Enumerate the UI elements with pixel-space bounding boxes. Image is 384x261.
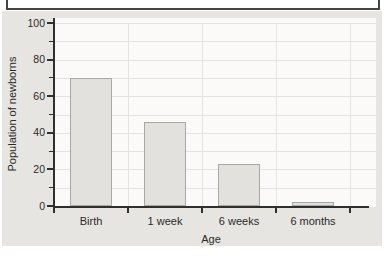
y-minor-tick: [49, 151, 54, 152]
h-gridline: [55, 23, 377, 24]
y-tick-label: 40: [12, 126, 45, 139]
v-gridline: [202, 23, 203, 206]
x-tick: [127, 208, 129, 213]
y-tick-label: 20: [12, 163, 45, 176]
y-axis-line: [53, 18, 55, 208]
bar-birth: [70, 78, 112, 206]
figure-screenshot: Population of newborns Age 020406080100B…: [0, 0, 384, 261]
x-axis-title: Age: [166, 232, 256, 246]
y-major-tick: [47, 205, 54, 207]
y-major-tick: [47, 132, 54, 134]
x-tick: [349, 208, 351, 213]
h-gridline: [55, 60, 377, 61]
y-minor-tick: [49, 114, 54, 115]
y-minor-tick: [49, 41, 54, 42]
y-minor-tick: [49, 77, 54, 78]
x-tick: [201, 208, 203, 213]
x-tick: [275, 208, 277, 213]
bar-6-weeks: [218, 164, 260, 206]
y-major-tick: [47, 59, 54, 61]
y-major-tick: [47, 95, 54, 97]
y-tick-label: 60: [12, 90, 45, 103]
y-minor-tick: [49, 187, 54, 188]
v-gridline: [350, 23, 351, 206]
y-tick-label: 80: [12, 53, 45, 66]
v-gridline: [276, 23, 277, 206]
bar-1-week: [144, 122, 186, 206]
chart-panel: Population of newborns Age 020406080100B…: [2, 11, 382, 246]
y-major-tick: [47, 22, 54, 24]
cropped-top-box: [6, 0, 380, 10]
x-axis-line: [53, 206, 369, 208]
y-tick-label: 100: [12, 17, 45, 30]
y-tick-label: 0: [12, 200, 45, 213]
x-tick-label: 6 months: [268, 215, 358, 228]
h-gridline: [55, 41, 377, 42]
v-gridline: [128, 23, 129, 206]
x-tick: [53, 208, 55, 213]
y-major-tick: [47, 168, 54, 170]
